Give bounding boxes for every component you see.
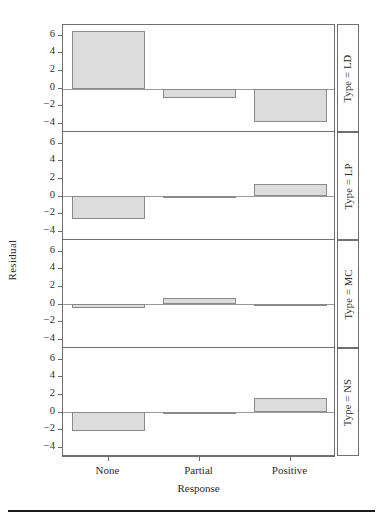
facet-strip-label: Type = LD (343, 54, 354, 102)
y-tick-label: 2 (50, 387, 55, 398)
bar-none (72, 31, 145, 89)
bar-positive (254, 184, 327, 196)
y-tick: −2 (0, 213, 62, 214)
panel-plot-area (62, 132, 335, 240)
y-tick-label: 4 (50, 369, 55, 380)
y-tick: −4 (0, 339, 62, 340)
facet-panel-ld (62, 24, 335, 132)
facet-strip-label: Type = NS (343, 378, 354, 425)
y-tick: 0 (0, 88, 62, 89)
x-tick-mark (108, 456, 109, 461)
panel-plot-area (62, 348, 335, 456)
y-tick: 6 (0, 359, 62, 360)
y-tick: 0 (0, 196, 62, 197)
x-tick-mark (290, 456, 291, 461)
facet-strip-mc: Type = MC (337, 240, 359, 348)
panel-plot-area (62, 240, 335, 348)
y-tick: 2 (0, 70, 62, 71)
y-tick-label: 6 (50, 28, 55, 39)
y-tick: 4 (0, 268, 62, 269)
y-tick-label: 6 (50, 352, 55, 363)
y-tick-label: 4 (50, 45, 55, 56)
facet-panel-ns (62, 348, 335, 456)
y-tick: 4 (0, 160, 62, 161)
y-tick-label: −2 (44, 422, 55, 433)
y-tick: 6 (0, 35, 62, 36)
y-tick: −4 (0, 231, 62, 232)
y-tick-label: 2 (50, 171, 55, 182)
facet-panel-mc (62, 240, 335, 348)
y-tick: 0 (0, 412, 62, 413)
bar-none (72, 304, 145, 308)
y-tick: 2 (0, 286, 62, 287)
y-tick-label: 4 (50, 153, 55, 164)
y-tick: −2 (0, 105, 62, 106)
facet-strip-lp: Type = LP (337, 132, 359, 240)
y-tick-label: 0 (50, 405, 55, 416)
y-tick-label: −4 (44, 116, 55, 127)
facet-strip-label: Type = LP (343, 163, 354, 209)
y-tick: −2 (0, 321, 62, 322)
y-tick-label: 0 (50, 297, 55, 308)
y-tick: 4 (0, 52, 62, 53)
bar-positive (254, 89, 327, 123)
residual-barchart-figure: Residual 6420−2−46420−2−46420−2−46420−2−… (0, 0, 383, 525)
bar-partial (163, 412, 236, 414)
facet-strip-ns: Type = NS (337, 348, 359, 456)
bar-positive (254, 398, 327, 411)
facet-strip-label: Type = MC (343, 269, 354, 319)
bar-partial (163, 298, 236, 304)
y-tick-label: −2 (44, 314, 55, 325)
bar-positive (254, 304, 327, 306)
y-tick-label: 0 (50, 81, 55, 92)
y-tick-label: 2 (50, 279, 55, 290)
y-tick-label: −2 (44, 206, 55, 217)
y-tick-label: 6 (50, 136, 55, 147)
y-tick: 2 (0, 394, 62, 395)
facet-strip-ld: Type = LD (337, 24, 359, 132)
bar-partial (163, 89, 236, 98)
y-tick-label: 0 (50, 189, 55, 200)
facet-panel-lp (62, 132, 335, 240)
y-tick: −4 (0, 447, 62, 448)
y-tick: −2 (0, 429, 62, 430)
x-axis-title: Response (62, 482, 335, 494)
y-tick: 6 (0, 143, 62, 144)
y-tick: 6 (0, 251, 62, 252)
bar-partial (163, 196, 236, 198)
bar-none (72, 196, 145, 219)
y-axis-ticks: 6420−2−46420−2−46420−2−46420−2−4 (0, 0, 62, 432)
y-tick: 2 (0, 178, 62, 179)
panel-plot-area (62, 24, 335, 132)
y-tick-label: 6 (50, 244, 55, 255)
y-tick-label: 2 (50, 63, 55, 74)
x-tick-label-positive: Positive (272, 464, 307, 476)
y-tick-label: −2 (44, 98, 55, 109)
x-tick-mark (199, 456, 200, 461)
y-tick-label: −4 (44, 224, 55, 235)
y-tick: 4 (0, 376, 62, 377)
x-tick-label-none: None (96, 464, 120, 476)
y-tick-label: −4 (44, 440, 55, 451)
facet-panels (62, 24, 335, 456)
y-tick: −4 (0, 123, 62, 124)
y-tick: 0 (0, 304, 62, 305)
bar-none (72, 412, 145, 431)
y-tick-label: 4 (50, 261, 55, 272)
x-tick-label-partial: Partial (184, 464, 213, 476)
footer-rule (8, 510, 375, 512)
y-tick-label: −4 (44, 332, 55, 343)
